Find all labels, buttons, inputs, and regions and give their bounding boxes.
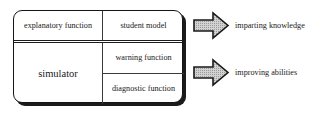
cell-simulator-label: simulator	[38, 68, 78, 80]
horizontal-divider-thin	[102, 73, 184, 74]
outcome-row-improving-abilities: improving abilities	[192, 58, 297, 87]
cell-simulator: simulator	[14, 43, 102, 104]
block-arrow-right-icon	[192, 58, 230, 87]
cell-warning-function: warning function	[103, 43, 184, 73]
cell-student-model-label: student model	[120, 21, 166, 30]
cell-diagnostic-function: diagnostic function	[103, 74, 184, 104]
cell-explanatory-function-label: explanatory function	[24, 21, 92, 30]
cell-warning-function-label: warning function	[115, 53, 171, 62]
outcome-label-improving-abilities: improving abilities	[235, 68, 297, 77]
diagram-canvas: explanatory function simulator student m…	[0, 0, 313, 114]
simulator-function-box: explanatory function simulator student m…	[13, 10, 183, 103]
outcome-label-imparting-knowledge: imparting knowledge	[235, 21, 305, 30]
horizontal-divider-thick	[14, 40, 182, 43]
cell-student-model: student model	[103, 11, 184, 40]
outcome-row-imparting-knowledge: imparting knowledge	[192, 11, 305, 40]
block-arrow-right-icon	[192, 11, 230, 40]
vertical-divider	[102, 11, 103, 104]
cell-diagnostic-function-label: diagnostic function	[112, 84, 175, 93]
cell-explanatory-function: explanatory function	[14, 11, 102, 40]
